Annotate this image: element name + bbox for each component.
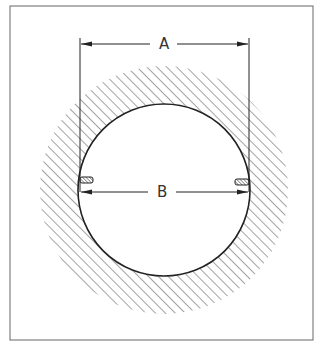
dimension-a-label: A <box>155 36 173 52</box>
gauge-contact-left <box>80 177 93 183</box>
dimension-b-label: B <box>153 184 171 200</box>
gauge-contact-right <box>235 179 249 185</box>
